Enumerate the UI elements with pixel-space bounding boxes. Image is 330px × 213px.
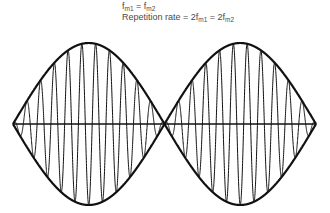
- envelope-upper: [13, 43, 316, 124]
- am-waveform-diagram: [0, 0, 330, 213]
